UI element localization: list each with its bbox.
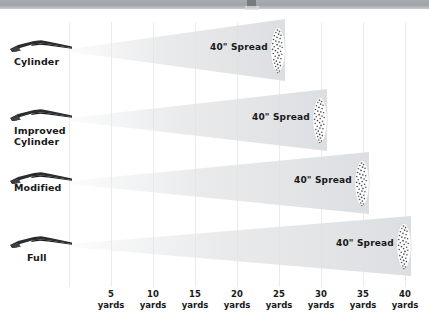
plot-area: Cylinder 40" Spread (0, 9, 429, 325)
spread-label-full: 40" Spread (336, 238, 394, 248)
axis-tick-35yards: 35 yards (341, 289, 385, 310)
axis-tick-40yards: 40 yards (383, 289, 427, 310)
spread-label-improved-cylinder: 40" Spread (252, 112, 310, 122)
axis-tick-unit: yards (215, 300, 259, 311)
shot-pattern-modified (352, 158, 372, 208)
axis-tick-unit: yards (257, 300, 301, 311)
axis-tick-number: 25 (257, 289, 301, 300)
axis-tick-10yards: 10 yards (131, 289, 175, 310)
spread-label-modified: 40" Spread (294, 175, 352, 185)
shot-pattern-improved-cylinder (310, 95, 330, 145)
top-gray-band (0, 0, 429, 9)
axis-tick-number: 10 (131, 289, 175, 300)
shot-pattern-cylinder (268, 25, 288, 75)
axis-tick-unit: yards (383, 300, 427, 311)
row-label-cylinder: Cylinder (14, 56, 59, 67)
shotgun-icon-full (8, 234, 74, 252)
row-label-modified: Modified (14, 182, 61, 193)
choke-spread-diagram: Cylinder 40" Spread (0, 0, 429, 325)
axis-tick-unit: yards (131, 300, 175, 311)
axis-tick-5yards: 5 yards (89, 289, 133, 310)
axis-tick-number: 20 (215, 289, 259, 300)
axis-tick-unit: yards (173, 300, 217, 311)
shotgun-icon-cylinder (8, 38, 74, 56)
axis-tick-number: 40 (383, 289, 427, 300)
axis-tick-15yards: 15 yards (173, 289, 217, 310)
axis-tick-number: 35 (341, 289, 385, 300)
axis-tick-number: 5 (89, 289, 133, 300)
axis-tick-unit: yards (89, 300, 133, 311)
axis-tick-20yards: 20 yards (215, 289, 259, 310)
axis-tick-unit: yards (299, 300, 343, 311)
axis-tick-30yards: 30 yards (299, 289, 343, 310)
row-label-full: Full (27, 252, 47, 263)
spread-label-cylinder: 40" Spread (210, 42, 268, 52)
shotgun-icon-improved-cylinder (8, 107, 74, 125)
axis-tick-25yards: 25 yards (257, 289, 301, 310)
row-label-improved-cylinder: Improved Cylinder (14, 125, 66, 147)
axis-tick-number: 30 (299, 289, 343, 300)
axis-tick-unit: yards (341, 300, 385, 311)
axis-tick-number: 15 (173, 289, 217, 300)
shot-pattern-full (394, 221, 414, 271)
